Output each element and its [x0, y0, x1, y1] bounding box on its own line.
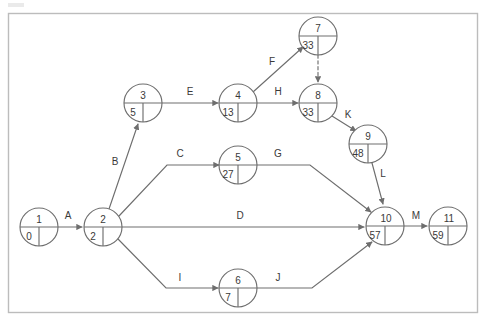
- node-10-value: 57: [369, 230, 381, 241]
- node-1-number: 1: [36, 214, 42, 225]
- node-3[interactable]: 3 5: [124, 84, 162, 122]
- node-3-number: 3: [140, 90, 146, 101]
- scan-artifact: [8, 3, 24, 7]
- edge-label-K: K: [345, 109, 352, 120]
- node-8-value: 33: [302, 107, 314, 118]
- node-7-number: 7: [315, 23, 321, 34]
- node-4-number: 4: [235, 90, 241, 101]
- node-11-number: 11: [444, 213, 455, 224]
- node-8[interactable]: 8 33: [299, 84, 337, 122]
- node-1[interactable]: 1 0: [20, 208, 58, 246]
- edge-label-L: L: [380, 168, 386, 179]
- node-6-value: 7: [225, 292, 231, 303]
- node-10-number: 10: [380, 213, 392, 224]
- edge-label-C: C: [176, 148, 183, 159]
- node-2[interactable]: 2 2: [84, 208, 122, 246]
- node-9-number: 9: [365, 131, 371, 142]
- node-3-value: 5: [130, 107, 136, 118]
- node-1-value: 0: [26, 231, 32, 242]
- node-5-value: 27: [222, 169, 234, 180]
- node-2-number: 2: [100, 214, 106, 225]
- edge-label-F: F: [269, 56, 275, 67]
- network-diagram-canvas: 1 0 2 2 3 5 4 13: [0, 0, 484, 321]
- node-11[interactable]: 11 59: [429, 207, 467, 245]
- node-5-number: 5: [235, 152, 241, 163]
- node-6[interactable]: 6 7: [219, 269, 257, 307]
- node-11-value: 59: [432, 230, 444, 241]
- edge-label-I: I: [179, 272, 182, 283]
- node-5[interactable]: 5 27: [219, 146, 257, 184]
- node-2-value: 2: [90, 231, 96, 242]
- edge-label-H: H: [274, 86, 281, 97]
- edge-label-E: E: [187, 86, 194, 97]
- edge-label-B: B: [112, 156, 119, 167]
- node-4-value: 13: [222, 107, 234, 118]
- node-4[interactable]: 4 13: [219, 84, 257, 122]
- node-9-value: 48: [352, 148, 364, 159]
- edge-label-A: A: [65, 210, 72, 221]
- edge-label-J: J: [276, 272, 281, 283]
- node-6-number: 6: [235, 275, 241, 286]
- node-10[interactable]: 10 57: [366, 207, 404, 245]
- edge-label-D: D: [236, 210, 243, 221]
- edge-label-G: G: [274, 148, 282, 159]
- network-diagram-figure: 1 0 2 2 3 5 4 13: [0, 0, 484, 321]
- node-9[interactable]: 9 48: [349, 125, 387, 163]
- node-8-number: 8: [315, 90, 321, 101]
- edge-label-M: M: [412, 210, 420, 221]
- node-7-value: 33: [302, 40, 314, 51]
- node-7[interactable]: 7 33: [299, 17, 337, 55]
